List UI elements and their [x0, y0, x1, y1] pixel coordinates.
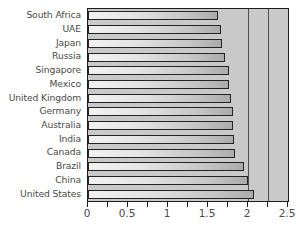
x-tick-label: 2.5 — [279, 208, 296, 219]
category-label: Russia — [0, 49, 84, 63]
bar — [88, 107, 233, 116]
x-tick-mark — [107, 201, 108, 207]
bar — [88, 135, 234, 144]
bar-row — [88, 23, 288, 37]
category-label: Australia — [0, 118, 84, 132]
bar-row — [88, 132, 288, 146]
category-label: Germany — [0, 104, 84, 118]
bar — [88, 25, 221, 34]
x-tick-label: 0.5 — [119, 208, 136, 219]
bar-row — [88, 105, 288, 119]
bar — [88, 11, 218, 20]
bar — [88, 162, 244, 171]
category-label: Canada — [0, 145, 84, 159]
bar — [88, 190, 254, 199]
x-tick-label: 1 — [164, 208, 171, 219]
bar — [88, 94, 231, 103]
bar — [88, 39, 222, 48]
x-tick-mark — [187, 201, 188, 207]
bar — [88, 149, 235, 158]
bar-row — [88, 50, 288, 64]
bar-row — [88, 174, 288, 188]
category-label: India — [0, 131, 84, 145]
value-axis: 00.511.522.5 — [87, 201, 287, 231]
x-tick-mark — [267, 201, 268, 207]
bar-row — [88, 187, 288, 201]
category-label: Japan — [0, 35, 84, 49]
x-tick-mark — [227, 201, 228, 207]
bar-row — [88, 160, 288, 174]
category-label: Mexico — [0, 77, 84, 91]
category-axis-labels: South AfricaUAEJapanRussiaSingaporeMexic… — [0, 8, 84, 200]
category-label: United States — [0, 186, 84, 200]
category-label: UAE — [0, 22, 84, 36]
category-label: Singapore — [0, 63, 84, 77]
bar-row — [88, 146, 288, 160]
plot-area — [87, 8, 289, 202]
bar — [88, 53, 225, 62]
bar-row — [88, 36, 288, 50]
bar — [88, 80, 229, 89]
bar-row — [88, 9, 288, 23]
x-tick-label: 1.5 — [199, 208, 216, 219]
bar-row — [88, 119, 288, 133]
bar — [88, 66, 229, 75]
bar-row — [88, 64, 288, 78]
bar-series — [88, 9, 288, 201]
category-label: Brazil — [0, 159, 84, 173]
category-label: South Africa — [0, 8, 84, 22]
category-label: United Kingdom — [0, 90, 84, 104]
category-label: China — [0, 173, 84, 187]
bar — [88, 176, 248, 185]
bar-chart: South AfricaUAEJapanRussiaSingaporeMexic… — [0, 0, 300, 231]
bar-row — [88, 91, 288, 105]
bar-row — [88, 78, 288, 92]
x-tick-mark — [147, 201, 148, 207]
bar — [88, 121, 233, 130]
x-tick-label: 2 — [244, 208, 251, 219]
x-tick-label: 0 — [84, 208, 91, 219]
